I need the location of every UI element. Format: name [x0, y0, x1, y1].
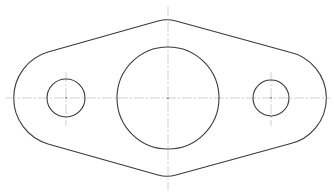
left-hole-center-point	[65, 97, 67, 99]
center-bore-center-point	[167, 97, 169, 99]
drawing-canvas	[0, 0, 334, 196]
right-hole-center-point	[270, 97, 272, 99]
technical-drawing	[0, 0, 334, 196]
